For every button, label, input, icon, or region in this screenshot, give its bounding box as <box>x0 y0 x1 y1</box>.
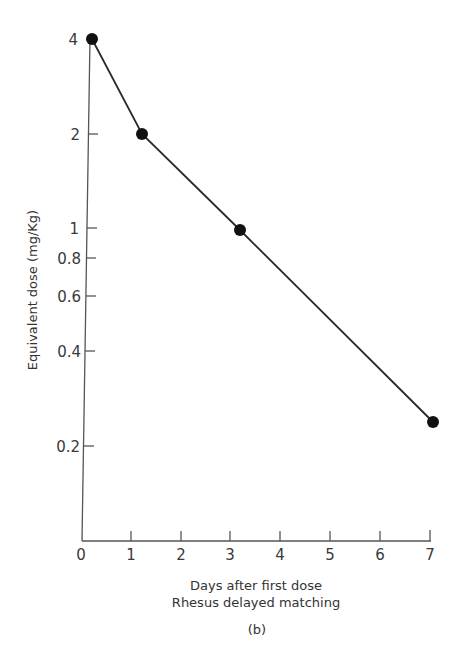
y-axis <box>82 38 90 541</box>
data-point <box>86 33 98 45</box>
x-axis-title: Days after first dose <box>190 578 322 593</box>
x-tick-label: 5 <box>325 546 335 564</box>
data-point <box>136 128 148 140</box>
chart: 4 2 1 0.8 0.6 0.4 0.2 0 1 2 3 4 5 6 7 Eq… <box>0 0 465 661</box>
data-point <box>427 416 439 428</box>
y-tick-label: 1 <box>69 220 79 238</box>
y-tick-label: 0.2 <box>56 438 80 456</box>
x-ticks <box>131 530 430 541</box>
y-tick-label: 2 <box>70 126 80 144</box>
x-tick-labels: 0 1 2 3 4 5 6 7 <box>76 546 435 564</box>
y-tick-label: 0.4 <box>57 343 81 361</box>
y-tick-label: 4 <box>68 31 78 49</box>
x-tick-label: 3 <box>225 546 235 564</box>
x-axis-subtitle: Rhesus delayed matching <box>172 595 340 610</box>
x-tick-label: 0 <box>76 546 86 564</box>
data-markers <box>86 33 439 428</box>
y-tick-label: 0.8 <box>57 250 81 268</box>
panel-caption: (b) <box>248 622 266 637</box>
data-point <box>234 224 246 236</box>
x-tick-label: 6 <box>375 546 385 564</box>
y-tick-label: 0.6 <box>57 288 81 306</box>
x-tick-label: 4 <box>275 546 285 564</box>
x-tick-label: 7 <box>425 546 435 564</box>
x-tick-label: 2 <box>176 546 186 564</box>
y-tick-labels: 4 2 1 0.8 0.6 0.4 0.2 <box>56 31 81 456</box>
data-series-line <box>92 39 433 422</box>
x-tick-label: 1 <box>126 546 136 564</box>
y-axis-title: Equivalent dose (mg/Kg) <box>25 210 40 370</box>
